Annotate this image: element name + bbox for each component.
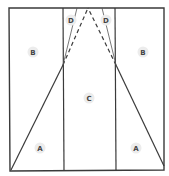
left-triangle-side bbox=[11, 65, 63, 170]
label-a-right: A bbox=[131, 143, 142, 154]
label-a-left: A bbox=[35, 143, 46, 154]
label-d-left-text: D bbox=[68, 17, 74, 25]
label-a-right-text: A bbox=[133, 145, 139, 153]
label-d-right: D bbox=[101, 15, 112, 26]
label-c-center: C bbox=[84, 93, 95, 104]
label-d-right-text: D bbox=[103, 17, 109, 25]
right-vertical-divider bbox=[115, 8, 116, 170]
geometry-diagram: B B C A A D D bbox=[0, 0, 169, 176]
left-vertical-divider bbox=[63, 8, 64, 170]
label-b-right: B bbox=[138, 47, 149, 58]
label-b-right-text: B bbox=[140, 49, 145, 57]
label-a-left-text: A bbox=[37, 145, 43, 153]
label-d-left: D bbox=[66, 15, 77, 26]
label-b-left-text: B bbox=[30, 49, 35, 57]
label-c-text: C bbox=[86, 95, 91, 103]
label-b-left: B bbox=[28, 47, 39, 58]
